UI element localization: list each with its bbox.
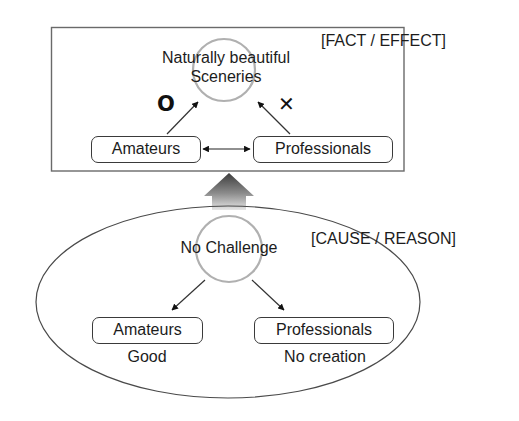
positive-mark-o: O xyxy=(157,93,175,115)
cause-label: [CAUSE / REASON] xyxy=(311,230,456,248)
target-text-line2: Sceneries xyxy=(190,68,261,86)
cause-node-professionals: Professionals xyxy=(254,317,394,344)
target-text-line1: Naturally beautiful xyxy=(162,49,290,67)
cause-node-amateurs: Amateurs xyxy=(92,317,203,344)
source-text: No Challenge xyxy=(181,239,278,257)
source-to-amateurs-arrow xyxy=(172,280,205,310)
amateurs-result: Good xyxy=(127,348,166,366)
effect-label: [FACT / EFFECT] xyxy=(321,32,446,50)
negative-mark-x: ✕ xyxy=(278,93,295,115)
source-to-professionals-arrow xyxy=(252,280,284,310)
professionals-result: No creation xyxy=(284,348,366,366)
effect-node-amateurs: Amateurs xyxy=(91,136,201,163)
effect-node-professionals: Professionals xyxy=(253,136,393,163)
cause-to-effect-big-arrow xyxy=(204,173,254,210)
